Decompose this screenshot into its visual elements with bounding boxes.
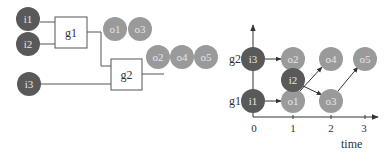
output-node-o2-label: o2 [153,51,164,63]
gate-g1-label: g1 [65,26,77,40]
timeline-node-o4: o4 [319,47,343,71]
output-node-o5-label: o5 [201,51,213,63]
input-node-i1: i1 [16,7,40,31]
timeline-chart: 0 1 2 3 g2 g1 time i1 i3 o1 o2 [229,25,378,151]
timeline-node-o2: o2 [281,47,305,71]
output-node-o2: o2 [146,45,170,69]
diagram-canvas: g1 g2 i1 i2 i3 o1 o3 o2 [0,0,388,153]
y-label-g2: g2 [229,52,241,66]
timeline-node-o3-label: o3 [326,95,338,107]
y-label-g1: g1 [229,94,241,108]
timeline-node-o2-label: o2 [288,53,299,65]
timeline-node-i3-label: i3 [249,53,258,65]
timeline-node-i2: i2 [281,68,305,92]
gate-g2: g2 [111,59,142,90]
input-node-i2-label: i2 [24,38,33,50]
output-node-o1: o1 [103,17,127,41]
output-node-o4: o4 [170,45,194,69]
input-node-i1-label: i1 [24,13,33,25]
gate-g2-label: g2 [121,68,133,82]
gate-g1: g1 [55,17,87,48]
x-tick-2: 2 [328,122,334,134]
input-node-i3: i3 [17,72,41,96]
timeline-edges [265,59,358,101]
output-node-o5: o5 [194,45,218,69]
x-tick-1: 1 [290,122,296,134]
input-node-i3-label: i3 [25,78,34,90]
edge-i2-o3 [303,86,322,95]
timeline-node-i1-label: i1 [249,95,258,107]
timeline-node-o5-label: o5 [360,53,372,65]
timeline-node-i3: i3 [241,47,265,71]
timeline-node-o1: o1 [281,89,305,113]
output-node-o4-label: o4 [177,51,189,63]
timeline-node-o3: o3 [319,89,343,113]
timeline-node-o1-label: o1 [288,95,299,107]
x-tick-3: 3 [361,122,367,134]
x-axis-label: time [341,137,362,151]
timeline-node-o5: o5 [353,47,377,71]
x-tick-0: 0 [251,122,257,134]
timeline-node-o4-label: o4 [326,53,338,65]
input-node-i2: i2 [16,32,40,56]
circuit-diagram: g1 g2 i1 i2 i3 o1 o3 o2 [16,7,218,96]
edge-o3-o5 [338,67,358,91]
output-node-o3: o3 [128,17,152,41]
output-node-o1-label: o1 [110,23,121,35]
timeline-node-i2-label: i2 [289,74,298,86]
output-node-o3-label: o3 [135,23,147,35]
timeline-node-i1: i1 [241,89,265,113]
